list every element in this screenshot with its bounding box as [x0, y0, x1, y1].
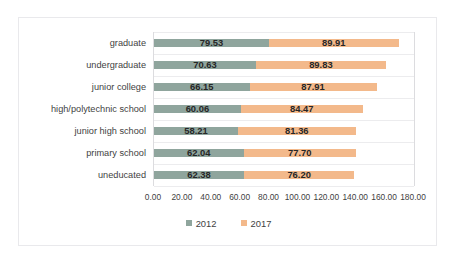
bar-row[interactable]: 58.2181.36 — [154, 120, 414, 142]
bar-value-label: 87.91 — [250, 78, 377, 96]
bar-value-label: 70.63 — [154, 56, 256, 74]
bar-value-label: 79.53 — [154, 34, 269, 52]
bar-value-label: 62.04 — [154, 144, 244, 162]
legend-item[interactable]: 2017 — [241, 218, 272, 229]
bar-value-label: 76.20 — [244, 166, 354, 184]
legend-swatch-icon — [186, 220, 192, 226]
category-label: graduate — [110, 32, 146, 54]
chart-plot-wrapper: graduateundergraduatejunior collegehigh/… — [19, 18, 438, 247]
legend-label: 2017 — [251, 218, 272, 229]
bar-value-label: 77.70 — [244, 144, 356, 162]
category-label: primary school — [86, 142, 146, 164]
category-label: high/polytechnic school — [51, 98, 146, 120]
legend-label: 2012 — [196, 218, 217, 229]
legend-swatch-icon — [241, 220, 247, 226]
bar-row[interactable]: 62.0477.70 — [154, 142, 414, 164]
bar-value-label: 89.83 — [256, 56, 386, 74]
gridline-horizontal — [154, 186, 414, 187]
bar-value-label: 66.15 — [154, 78, 250, 96]
bar-value-label: 60.06 — [154, 100, 241, 118]
category-label: junior high school — [74, 120, 146, 142]
bar-row[interactable]: 66.1587.91 — [154, 76, 414, 98]
category-label: undergraduate — [86, 54, 146, 76]
category-axis: graduateundergraduatejunior collegehigh/… — [19, 32, 152, 186]
bar-row[interactable]: 62.3876.20 — [154, 164, 414, 186]
bar-value-label: 84.47 — [241, 100, 363, 118]
bar-value-label: 81.36 — [238, 122, 356, 140]
axis-tick-label: 180.00 — [396, 190, 430, 204]
bar-row[interactable]: 79.5389.91 — [154, 32, 414, 54]
chart-container: graduateundergraduatejunior collegehigh/… — [18, 17, 437, 246]
bar-row[interactable]: 70.6389.83 — [154, 54, 414, 76]
legend-item[interactable]: 2012 — [186, 218, 217, 229]
bar-value-label: 62.38 — [154, 166, 244, 184]
bar-row[interactable]: 60.0684.47 — [154, 98, 414, 120]
bar-value-label: 89.91 — [269, 34, 399, 52]
category-label: uneducated — [98, 164, 146, 186]
plot-area: 79.5389.9170.6389.8366.1587.9160.0684.47… — [153, 32, 415, 186]
category-label: junior college — [92, 76, 146, 98]
value-axis: 0.0020.0040.0060.0080.00100.00120.00140.… — [153, 190, 415, 206]
bar-value-label: 58.21 — [154, 122, 238, 140]
chart-legend: 20122017 — [19, 214, 438, 232]
